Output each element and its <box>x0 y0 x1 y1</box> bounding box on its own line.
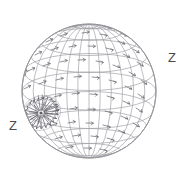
axis-label-z-right: Z <box>168 51 176 64</box>
figure-root: Z Z <box>0 0 195 179</box>
axis-label-z-left: Z <box>9 119 17 132</box>
globe-vector-field-diagram <box>0 0 195 179</box>
